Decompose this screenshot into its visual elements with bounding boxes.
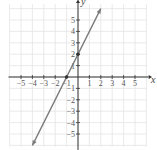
y-tick-label: 2 <box>71 50 75 59</box>
x-tick-label: 5 <box>133 79 137 88</box>
data-point <box>76 52 80 56</box>
x-tick-label: −2 <box>51 79 60 88</box>
x-axis-label: x <box>150 74 156 85</box>
y-tick-label: −3 <box>66 107 75 116</box>
x-tick-label: 2 <box>99 79 103 88</box>
y-tick-label: −1 <box>66 84 75 93</box>
data-point <box>65 75 69 79</box>
x-tick-label: −4 <box>28 79 37 88</box>
y-axis-label: y <box>80 0 86 7</box>
x-tick-label: 1 <box>87 79 91 88</box>
x-tick-label: −5 <box>17 79 26 88</box>
y-tick-label: −2 <box>66 96 75 105</box>
x-tick-label: −3 <box>40 79 49 88</box>
y-tick-label: 5 <box>71 16 75 25</box>
axes <box>8 0 152 150</box>
x-tick-label: 4 <box>122 79 126 88</box>
y-axis-arrow-icon <box>76 0 80 3</box>
x-tick-label: 3 <box>110 79 114 88</box>
y-tick-label: −5 <box>66 130 75 139</box>
y-tick-label: −4 <box>66 119 75 128</box>
y-tick-label: 4 <box>71 27 75 36</box>
coordinate-plane: −5−4−3−2−11234554321−1−2−3−4−5 x y <box>0 0 157 150</box>
y-tick-label: 3 <box>71 39 75 48</box>
